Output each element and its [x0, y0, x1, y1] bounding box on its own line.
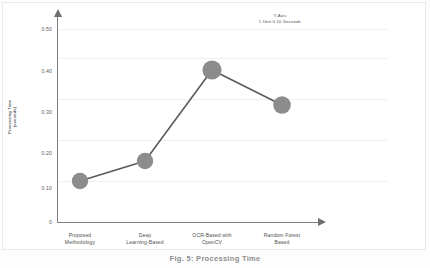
xtick-label-line1: OCR-Based with [175, 232, 249, 239]
y-axis-unit-annotation: Y-Axis 1 Unit:0.10 Seconds [232, 13, 328, 26]
plot-area: 0.50 0.40 0.30 0.20 0.10 0 Processing Ti… [0, 0, 430, 268]
unit-annotation-line2: 1 Unit:0.10 Seconds [232, 19, 328, 25]
data-series [0, 0, 430, 268]
xtick-label-deep-learning-based: Deep Learning-Based [108, 232, 182, 246]
xtick-label-ocr-based-with-opencv: OCR-Based with OpenCV [175, 232, 249, 246]
xtick-label-line2: Based [245, 239, 319, 246]
xtick-label-proposed-methodology: Proposed Methodology [43, 232, 117, 246]
figure-caption: Fig. 5: Processing Time [0, 254, 430, 263]
xtick-label-line2: Methodology [43, 239, 117, 246]
xtick-label-line2: Learning-Based [108, 239, 182, 246]
figure-container: 0.50 0.40 0.30 0.20 0.10 0 Processing Ti… [0, 0, 430, 268]
data-point-2[interactable] [202, 60, 221, 79]
xtick-label-random-forest-based: Random Forest Based [245, 232, 319, 246]
data-point-3[interactable] [273, 96, 291, 114]
xtick-label-line2: OpenCV [175, 239, 249, 246]
data-point-1[interactable] [137, 153, 153, 169]
xtick-label-line1: Deep [108, 232, 182, 239]
series-line [80, 70, 282, 181]
data-point-0[interactable] [72, 173, 88, 189]
xtick-label-line1: Proposed [43, 232, 117, 239]
xtick-label-line1: Random Forest [245, 232, 319, 239]
